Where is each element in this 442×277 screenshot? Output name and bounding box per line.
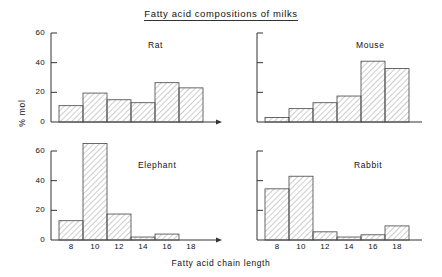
- plot-rabbit: [252, 148, 432, 253]
- ytick-rat-60: 60: [25, 28, 45, 37]
- xtick-rabbit-10: 10: [293, 242, 309, 251]
- xtick-elephant-12: 12: [111, 242, 127, 251]
- xtick-elephant-8: 8: [63, 242, 79, 251]
- plot-mouse: [252, 30, 432, 135]
- panel-rabbit: Rabbit 8 10 12 14 16 18: [252, 148, 432, 253]
- panel-rat: Rat 60: [38, 30, 228, 135]
- ytick-elephant-60: 60: [25, 146, 45, 155]
- xtick-rabbit-14: 14: [341, 242, 357, 251]
- xtick-elephant-14: 14: [135, 242, 151, 251]
- xtick-elephant-16: 16: [159, 242, 175, 251]
- xtick-elephant-10: 10: [87, 242, 103, 251]
- panel-label-rabbit: Rabbit: [354, 160, 382, 170]
- figure-title-text: Fatty acid compositions of milks: [144, 8, 297, 21]
- plot-rat: [38, 30, 228, 135]
- panel-label-elephant: Elephant: [138, 160, 176, 170]
- ytick-rat-20: 20: [25, 87, 45, 96]
- panel-label-mouse: Mouse: [356, 40, 385, 50]
- figure-title: Fatty acid compositions of milks: [0, 8, 442, 19]
- xtick-rabbit-12: 12: [317, 242, 333, 251]
- panel-elephant: Elephant 60 40 20 0 8 10 12 14: [38, 148, 228, 253]
- xtick-rabbit-18: 18: [389, 242, 405, 251]
- elephant-bars: [59, 144, 179, 240]
- ytick-rat-0: 0: [25, 117, 45, 126]
- panel-label-rat: Rat: [148, 40, 163, 50]
- ytick-rat-40: 40: [25, 58, 45, 67]
- xtick-elephant-18: 18: [183, 242, 199, 251]
- chart-figure: Fatty acid compositions of milks % mol F…: [0, 0, 442, 277]
- mouse-bars: [265, 61, 409, 122]
- plot-elephant: [38, 148, 228, 253]
- ytick-elephant-40: 40: [25, 176, 45, 185]
- rabbit-bars: [265, 176, 409, 240]
- rat-bars: [59, 83, 203, 122]
- xtick-rabbit-16: 16: [365, 242, 381, 251]
- ytick-elephant-0: 0: [25, 235, 45, 244]
- xtick-rabbit-8: 8: [269, 242, 285, 251]
- panel-mouse: Mouse: [252, 30, 432, 135]
- ytick-elephant-20: 20: [25, 205, 45, 214]
- x-axis-title: Fatty acid chain length: [0, 258, 442, 268]
